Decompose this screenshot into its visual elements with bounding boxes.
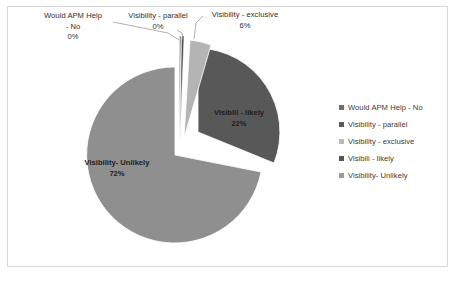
callout-parallel-line1: Visibility - parallel xyxy=(118,11,198,22)
callout-exclusive-line1: Visibility - exclusive xyxy=(202,10,288,21)
legend-swatch-icon xyxy=(339,122,344,127)
callout-label-parallel: Visibility - parallel 0% xyxy=(118,11,198,32)
legend-label: Visibility - parallel xyxy=(348,120,408,129)
legend-swatch-icon xyxy=(339,105,344,110)
callout-apm-no-value: 0% xyxy=(34,32,112,43)
legend-item-apm-no[interactable]: Would APM Help - No xyxy=(339,99,447,116)
legend-item-parallel[interactable]: Visibility - parallel xyxy=(339,116,447,133)
slice-label-unlikely-name: Visibility- Unlikely xyxy=(62,158,172,169)
callout-label-apm-no: Would APM Help - No 0% xyxy=(34,11,112,43)
legend-item-exclusive[interactable]: Visibility - exclusive xyxy=(339,133,447,150)
legend-label: Visibility- Unlikely xyxy=(348,171,408,180)
slice-label-likely: Visibili - likely 22% xyxy=(198,108,280,129)
legend-swatch-icon xyxy=(339,173,344,178)
callout-apm-no-line1: Would APM Help xyxy=(34,11,112,22)
callout-label-exclusive: Visibility - exclusive 6% xyxy=(202,10,288,31)
slice-label-likely-name: Visibili - likely xyxy=(198,108,280,119)
slice-label-unlikely: Visibility- Unlikely 72% xyxy=(62,158,172,179)
legend-swatch-icon xyxy=(339,156,344,161)
legend-label: Visibili - likely xyxy=(348,154,394,163)
legend-item-unlikely[interactable]: Visibility- Unlikely xyxy=(339,167,447,184)
callout-exclusive-value: 6% xyxy=(202,21,288,32)
legend-item-likely[interactable]: Visibili - likely xyxy=(339,150,447,167)
callout-parallel-value: 0% xyxy=(118,22,198,33)
legend-label: Would APM Help - No xyxy=(348,103,423,112)
callout-apm-no-line2: - No xyxy=(34,22,112,33)
pie-slice-likely xyxy=(198,48,280,163)
legend-swatch-icon xyxy=(339,139,344,144)
pie-chart-screenshot: Would APM Help - No 0% Visibility - para… xyxy=(0,0,460,284)
legend-label: Visibility - exclusive xyxy=(348,137,414,146)
slice-label-unlikely-value: 72% xyxy=(62,169,172,180)
chart-legend: Would APM Help - No Visibility - paralle… xyxy=(339,99,447,184)
slice-label-likely-value: 22% xyxy=(198,119,280,130)
